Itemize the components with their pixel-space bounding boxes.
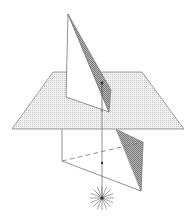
light-source-icon — [90, 186, 114, 210]
lower-shaded-face — [116, 129, 143, 191]
point-lower — [101, 162, 103, 164]
lower-solid-edge — [62, 161, 141, 191]
lower-structure — [62, 129, 143, 191]
diagram-canvas — [0, 0, 195, 224]
point-upper — [101, 82, 104, 85]
upper-structure — [66, 14, 111, 112]
